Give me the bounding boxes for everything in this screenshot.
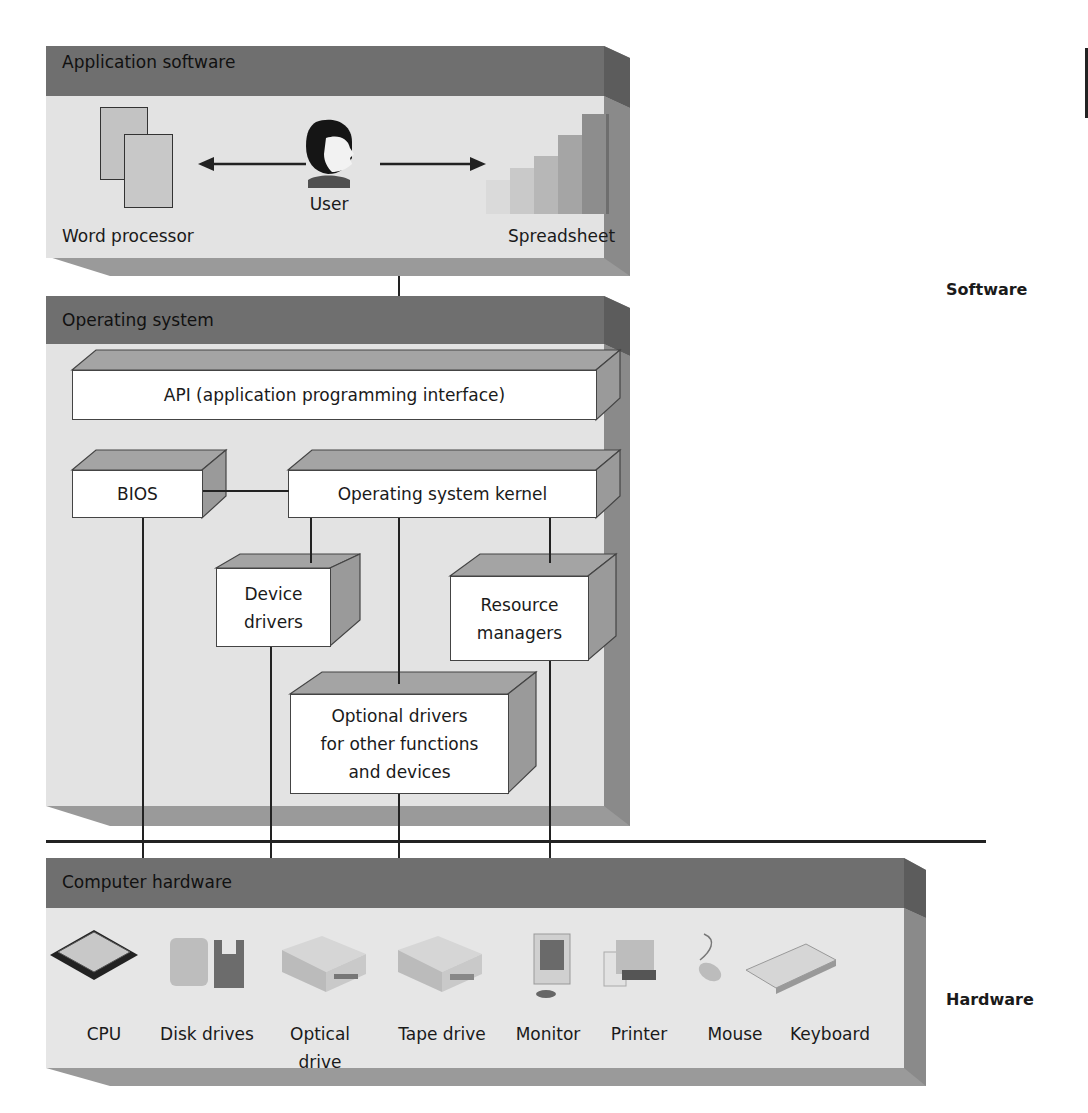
optional-hw-connector	[398, 794, 400, 858]
hardware-item-monitor: Monitor	[508, 1020, 588, 1048]
mouse-icon	[696, 934, 725, 985]
device-drivers-line1: Device	[244, 580, 302, 608]
software-hardware-divider	[46, 840, 986, 843]
kernel-box: Operating system kernel	[288, 470, 597, 518]
device-drivers-line2: drivers	[244, 608, 303, 636]
optional-drivers-line1: Optional drivers	[331, 702, 467, 730]
hardware-item-tape-drive: Tape drive	[392, 1020, 492, 1048]
optical-drive-icon	[282, 936, 366, 992]
optional-drivers-line3: and devices	[348, 758, 450, 786]
kernel-device-connector	[310, 518, 312, 563]
hardware-side-label: Hardware	[946, 990, 1034, 1009]
tape-drive-icon	[398, 936, 482, 992]
hardware-item-keyboard: Keyboard	[780, 1020, 880, 1048]
disk-drives-icon	[170, 938, 244, 988]
bios-hw-connector	[142, 518, 144, 858]
optional-drivers-line2: for other functions	[321, 730, 479, 758]
printer-icon	[604, 940, 656, 986]
monitor-icon	[534, 934, 570, 998]
spreadsheet-label: Spreadsheet	[508, 226, 615, 246]
device-hw-connector	[270, 647, 272, 858]
cpu-icon	[50, 930, 138, 980]
api-label: API (application programming interface)	[164, 381, 505, 409]
hardware-item-printer: Printer	[604, 1020, 674, 1048]
kernel-optional-connector	[398, 518, 400, 684]
hardware-item-disk-drives: Disk drives	[152, 1020, 262, 1048]
user-label: User	[300, 194, 358, 214]
keyboard-icon	[746, 944, 836, 994]
resource-managers-line2: managers	[477, 619, 562, 647]
bios-label: BIOS	[117, 480, 158, 508]
optional-drivers-box: Optional drivers for other functions and…	[290, 694, 509, 794]
resource-hw-connector	[549, 661, 551, 858]
hardware-icons	[46, 930, 906, 1005]
hardware-item-optical-drive: Optical drive	[290, 1020, 350, 1076]
bios-box: BIOS	[72, 470, 203, 518]
bios-kernel-connector	[203, 490, 289, 492]
word-processor-label: Word processor	[62, 226, 194, 246]
software-side-label: Software	[946, 280, 1027, 299]
kernel-label: Operating system kernel	[338, 480, 548, 508]
hardware-layer-title: Computer hardware	[62, 872, 232, 892]
kernel-resource-connector	[549, 518, 551, 563]
device-drivers-box: Device drivers	[216, 568, 331, 647]
application-layer-title: Application software	[62, 52, 235, 72]
resource-managers-line1: Resource	[481, 591, 559, 619]
hardware-item-mouse: Mouse	[700, 1020, 770, 1048]
resource-managers-box: Resource managers	[450, 576, 589, 661]
api-box: API (application programming interface)	[72, 370, 597, 420]
os-layer-title: Operating system	[62, 310, 214, 330]
hardware-item-cpu: CPU	[74, 1020, 134, 1048]
